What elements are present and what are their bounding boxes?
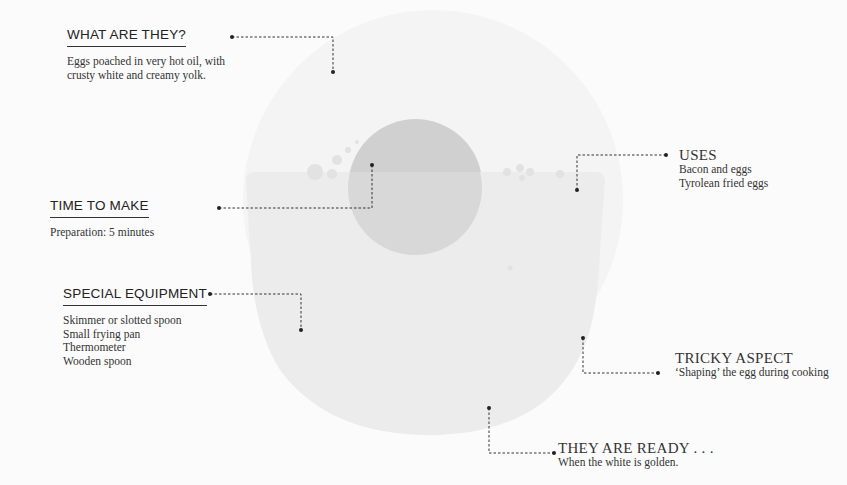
section-special-equipment: SPECIAL EQUIPMENT Skimmer or slotted spo… [63,284,207,368]
uses-list: Bacon and eggs Tyrolean fried eggs [679,163,768,190]
time-to-make-text: Preparation: 5 minutes [50,226,154,240]
special-equipment-list: Skimmer or slotted spoon Small frying pa… [63,314,207,368]
section-time-to-make: TIME TO MAKE Preparation: 5 minutes [50,196,154,240]
special-equipment-heading: SPECIAL EQUIPMENT [63,286,207,306]
what-are-they-heading: WHAT ARE THEY? [67,27,186,47]
section-they-are-ready: THEY ARE READY . . . When the white is g… [558,440,714,470]
section-uses: USES Bacon and eggs Tyrolean fried eggs [679,147,768,190]
section-tricky-aspect: TRICKY ASPECT ‘Shaping’ the egg during c… [675,350,829,380]
time-to-make-heading: TIME TO MAKE [50,198,149,218]
tricky-aspect-heading: TRICKY ASPECT [675,350,829,366]
uses-heading: USES [679,147,768,163]
infographic: WHAT ARE THEY? Eggs poached in very hot … [0,0,847,485]
they-are-ready-text: When the white is golden. [558,456,714,470]
what-are-they-text: Eggs poached in very hot oil, with crust… [67,55,225,82]
tricky-aspect-text: ‘Shaping’ the egg during cooking [675,366,829,380]
they-are-ready-heading: THEY ARE READY . . . [558,440,714,456]
section-what-are-they: WHAT ARE THEY? Eggs poached in very hot … [67,25,225,82]
